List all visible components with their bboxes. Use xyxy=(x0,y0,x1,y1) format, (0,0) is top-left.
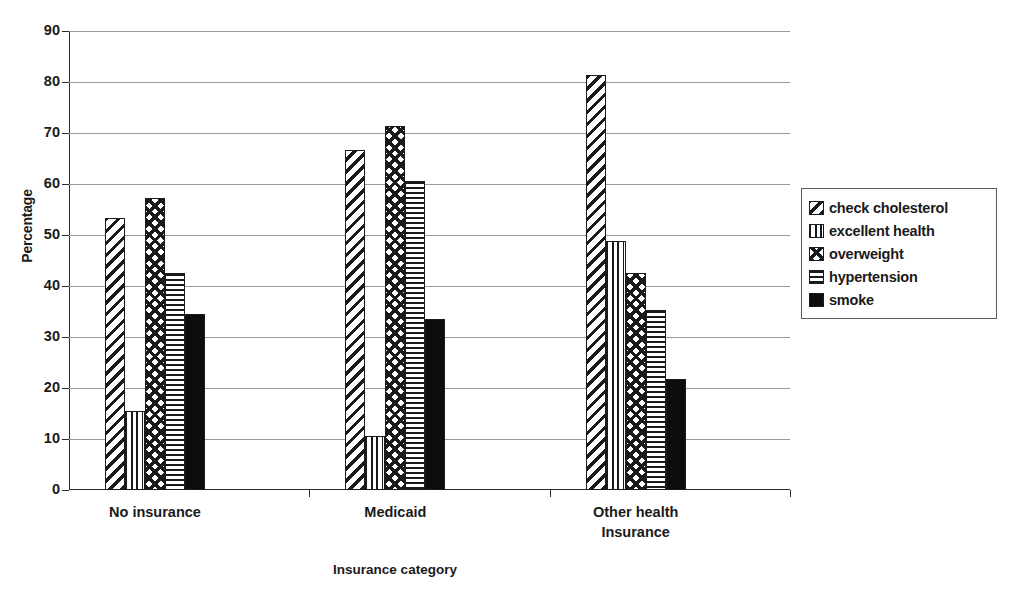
x-axis-tick xyxy=(550,490,551,497)
bar xyxy=(646,310,666,490)
y-axis-tick xyxy=(62,439,69,440)
bar xyxy=(105,218,125,490)
legend-swatch-icon xyxy=(809,201,824,215)
y-axis-tick xyxy=(62,235,69,236)
x-axis-category-label: No insurance xyxy=(35,502,275,522)
y-axis-tick-label: 70 xyxy=(14,124,60,140)
y-axis-tick xyxy=(62,388,69,389)
legend-item-label: check cholesterol xyxy=(829,200,948,216)
x-axis-category-label: Other healthInsurance xyxy=(516,502,756,542)
bar-group xyxy=(105,31,205,490)
legend-swatch-icon xyxy=(809,293,824,307)
legend-item-label: overweight xyxy=(829,246,904,262)
x-axis-tick xyxy=(309,490,310,497)
x-axis-category-label-line: Insurance xyxy=(516,522,756,542)
bar-group xyxy=(586,31,686,490)
bar xyxy=(385,126,405,490)
x-axis-category-label-line: No insurance xyxy=(35,502,275,522)
y-axis-tick xyxy=(62,490,69,491)
y-axis-tick xyxy=(62,337,69,338)
bar xyxy=(425,319,445,490)
bar xyxy=(405,181,425,490)
legend-swatch-icon xyxy=(809,224,824,238)
y-axis-tick-label: 60 xyxy=(14,175,60,191)
bar xyxy=(185,314,205,490)
bar xyxy=(145,198,165,490)
bar xyxy=(626,273,646,490)
legend-item[interactable]: hypertension xyxy=(809,265,988,288)
bar xyxy=(666,379,686,490)
bar xyxy=(165,273,185,490)
x-axis-tick xyxy=(790,490,791,497)
x-axis-category-label-line: Medicaid xyxy=(275,502,515,522)
y-axis-tick-label: 50 xyxy=(14,226,60,242)
bar xyxy=(365,436,385,490)
bar xyxy=(586,75,606,490)
x-axis-category-label-line: Other health xyxy=(516,502,756,522)
legend: check cholesterolexcellent healthoverwei… xyxy=(801,188,997,319)
bar-group xyxy=(345,31,445,490)
legend-item[interactable]: excellent health xyxy=(809,219,988,242)
y-axis-tick-label: 30 xyxy=(14,328,60,344)
legend-swatch-icon xyxy=(809,247,824,261)
x-axis-title: Insurance category xyxy=(0,562,790,577)
x-axis-category-label: Medicaid xyxy=(275,502,515,522)
legend-item[interactable]: smoke xyxy=(809,288,988,311)
legend-item[interactable]: overweight xyxy=(809,242,988,265)
y-axis-tick xyxy=(62,184,69,185)
y-axis-tick-label: 80 xyxy=(14,73,60,89)
bar-chart: Percentage 0102030405060708090 No insura… xyxy=(0,0,1013,604)
y-axis-tick xyxy=(62,133,69,134)
y-axis-tick-label: 90 xyxy=(14,22,60,38)
bar xyxy=(125,411,145,490)
plot-area xyxy=(69,31,790,490)
y-axis-tick-label: 0 xyxy=(14,481,60,497)
legend-item-label: hypertension xyxy=(829,269,918,285)
y-axis-tick xyxy=(62,31,69,32)
y-axis-tick-label: 10 xyxy=(14,430,60,446)
bar xyxy=(606,241,626,490)
legend-item[interactable]: check cholesterol xyxy=(809,196,988,219)
y-axis-tick xyxy=(62,286,69,287)
y-axis-tick-label: 40 xyxy=(14,277,60,293)
y-axis-tick xyxy=(62,82,69,83)
legend-swatch-icon xyxy=(809,270,824,284)
y-axis-tick-label: 20 xyxy=(14,379,60,395)
legend-item-label: excellent health xyxy=(829,223,935,239)
bar xyxy=(345,150,365,490)
legend-item-label: smoke xyxy=(829,292,874,308)
